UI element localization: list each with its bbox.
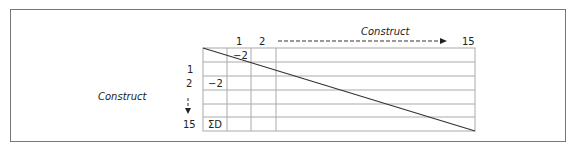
down-arrow-head-icon xyxy=(185,108,191,114)
right-arrow-head-icon xyxy=(440,38,447,44)
col-label-1: 1 xyxy=(236,36,242,47)
left-axis-title: Construct xyxy=(98,91,146,102)
top-axis-title: Construct xyxy=(361,26,409,37)
cell-r1-c2: −2 xyxy=(233,50,248,61)
matrix-grid xyxy=(0,0,582,150)
row-label-15: 15 xyxy=(183,119,196,130)
cell-r2-c1: −2 xyxy=(208,78,223,89)
col-label-2: 2 xyxy=(259,36,265,47)
row-label-1: 1 xyxy=(187,64,193,75)
row-label-2: 2 xyxy=(186,78,192,89)
col-label-15: 15 xyxy=(462,36,475,47)
cell-r15-c1-sum: ΣD xyxy=(208,119,222,130)
